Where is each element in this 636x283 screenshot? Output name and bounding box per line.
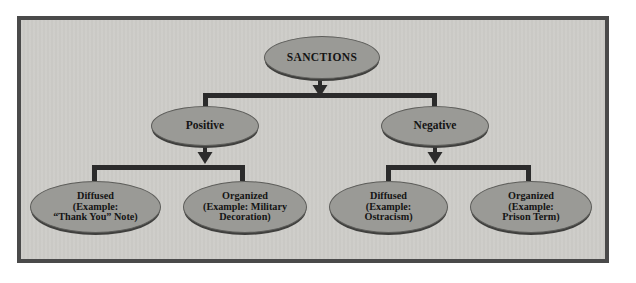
node-negative-diffused-label: Diffused (Example: Ostracism) — [330, 191, 447, 223]
node-negative-label: Negative — [382, 120, 488, 132]
node-negative-organized-label: Organized (Example: Prison Term) — [471, 191, 591, 223]
node-negative[interactable]: Negative — [381, 106, 489, 146]
node-positive[interactable]: Positive — [151, 106, 259, 146]
node-positive-diffused-label: Diffused (Example: “Thank You” Note) — [31, 191, 160, 223]
node-positive-label: Positive — [152, 120, 258, 132]
diagram-canvas: SANCTIONS Positive Negative Diffused (Ex… — [0, 0, 636, 283]
node-positive-organized[interactable]: Organized (Example: Military Decoration) — [183, 181, 307, 233]
node-sanctions[interactable]: SANCTIONS — [264, 36, 380, 79]
node-sanctions-label: SANCTIONS — [265, 52, 379, 64]
node-positive-organized-label: Organized (Example: Military Decoration) — [184, 191, 306, 223]
node-negative-organized[interactable]: Organized (Example: Prison Term) — [470, 181, 592, 233]
node-negative-diffused[interactable]: Diffused (Example: Ostracism) — [329, 181, 448, 233]
node-positive-diffused[interactable]: Diffused (Example: “Thank You” Note) — [30, 181, 161, 233]
